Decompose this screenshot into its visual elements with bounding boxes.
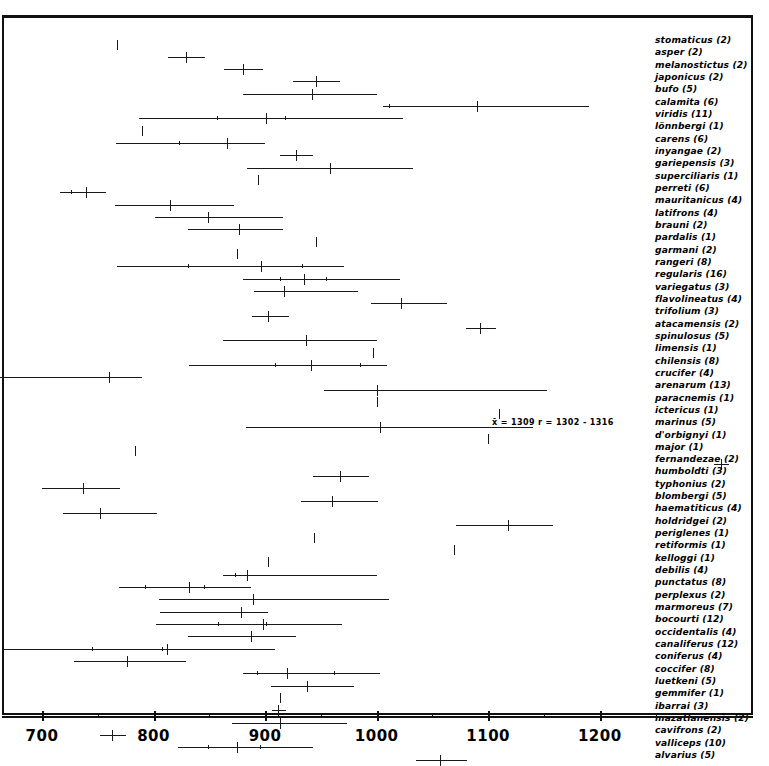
taxon-label: ibarrai (3)	[655, 700, 769, 712]
taxon-label: periglenes (1)	[655, 527, 769, 539]
axis-tick-label: 1100	[466, 727, 510, 745]
taxon-label: coccifer (8)	[655, 663, 769, 675]
plot-frame	[2, 15, 753, 715]
taxon-label: regularis (16)	[655, 268, 769, 280]
taxon-label: occidentalis (4)	[655, 626, 769, 638]
taxon-label: chilensis (8)	[655, 355, 769, 367]
taxon-label: asper (2)	[655, 46, 769, 58]
axis-tick-major	[488, 711, 490, 721]
mean-tick	[237, 742, 238, 753]
taxon-label: viridis (11)	[655, 108, 769, 120]
axis-tick-major	[154, 711, 156, 721]
taxon-label: pardalis (1)	[655, 231, 769, 243]
taxon-label: blombergi (5)	[655, 490, 769, 502]
taxon-label: spinulosus (5)	[655, 330, 769, 342]
taxon-label: major (1)	[655, 441, 769, 453]
taxon-label: trifolium (3)	[655, 305, 769, 317]
axis-tick-label: 1200	[578, 727, 622, 745]
range-bar	[100, 735, 126, 736]
taxon-label: mazatlanensis (2)	[655, 712, 769, 724]
taxon-label: debilis (4)	[655, 564, 769, 576]
taxon-label: d'orbignyi (1)	[655, 429, 769, 441]
axis-tick-major	[42, 711, 44, 721]
axis-tick-label: 800	[137, 727, 170, 745]
axis-tick-minor	[432, 713, 433, 718]
taxon-label: variegatus (3)	[655, 281, 769, 293]
taxon-label: cavifrons (2)	[655, 724, 769, 736]
taxon-label: mauritanicus (4)	[655, 194, 769, 206]
taxon-label: alvarius (5)	[655, 749, 769, 761]
taxon-label: limensis (1)	[655, 342, 769, 354]
taxon-label: typhonius (2)	[655, 478, 769, 490]
axis-tick-label: 900	[249, 727, 282, 745]
taxon-label: arenarum (13)	[655, 379, 769, 391]
taxon-label: melanostictus (2)	[655, 59, 769, 71]
taxon-label: punctatus (8)	[655, 576, 769, 588]
taxon-label: canaliferus (12)	[655, 638, 769, 650]
taxon-label: crucifer (4)	[655, 367, 769, 379]
taxon-label: superciliaris (1)	[655, 170, 769, 182]
taxon-label: garmani (2)	[655, 244, 769, 256]
taxon-label: perplexus (2)	[655, 589, 769, 601]
taxon-label: stomaticus (2)	[655, 34, 769, 46]
axis-tick-minor	[656, 713, 657, 718]
taxon-label: valliceps (10)	[655, 737, 769, 749]
taxon-label: kelloggi (1)	[655, 552, 769, 564]
taxon-label: lönnbergi (1)	[655, 120, 769, 132]
taxon-label: japonicus (2)	[655, 71, 769, 83]
taxon-label: paracnemis (1)	[655, 392, 769, 404]
taxon-label: fernandezae (2)	[655, 453, 769, 465]
taxon-label: gemmifer (1)	[655, 687, 769, 699]
taxon-label: gariepensis (3)	[655, 157, 769, 169]
taxon-label: flavolineatus (4)	[655, 293, 769, 305]
axis-tick-major	[377, 711, 379, 721]
taxon-label: brauni (2)	[655, 219, 769, 231]
taxon-label: coniferus (4)	[655, 650, 769, 662]
taxon-label: perreti (6)	[655, 182, 769, 194]
taxon-label: rangeri (8)	[655, 256, 769, 268]
axis-tick-minor	[98, 713, 99, 718]
axis-tick-minor	[209, 713, 210, 718]
taxon-label: latifrons (4)	[655, 207, 769, 219]
taxon-label: bufo (5)	[655, 83, 769, 95]
taxon-label-column: stomaticus (2)asper (2)melanostictus (2)…	[655, 34, 769, 761]
taxon-label: marmoreus (7)	[655, 601, 769, 613]
taxon-label: calamita (6)	[655, 96, 769, 108]
taxon-label: luetkeni (5)	[655, 675, 769, 687]
range-bar	[232, 723, 347, 724]
sample-tick	[208, 745, 209, 749]
axis-tick-minor	[321, 713, 322, 718]
taxon-label: humboldti (3)	[655, 465, 769, 477]
axis-tick-minor	[544, 713, 545, 718]
axis-tick-major	[265, 711, 267, 721]
mean-range-annotation: x̄ = 1309 r = 1302 - 1316	[492, 418, 614, 427]
taxon-label: carens (6)	[655, 133, 769, 145]
axis-tick-major	[600, 711, 602, 721]
axis-tick-label: 1000	[355, 727, 399, 745]
sample-tick	[260, 745, 261, 749]
mean-tick	[440, 755, 441, 766]
taxon-label: holdridgei (2)	[655, 515, 769, 527]
range-bar	[416, 760, 467, 761]
taxon-label: bocourti (12)	[655, 613, 769, 625]
taxon-label: inyangae (2)	[655, 145, 769, 157]
axis-tick-label: 700	[26, 727, 59, 745]
mean-tick	[112, 730, 113, 741]
taxon-label: marinus (5)	[655, 416, 769, 428]
taxon-label: retiformis (1)	[655, 539, 769, 551]
taxon-label: haematiticus (4)	[655, 502, 769, 514]
taxon-label: atacamensis (2)	[655, 318, 769, 330]
taxon-label: ictericus (1)	[655, 404, 769, 416]
range-bar	[178, 747, 313, 748]
